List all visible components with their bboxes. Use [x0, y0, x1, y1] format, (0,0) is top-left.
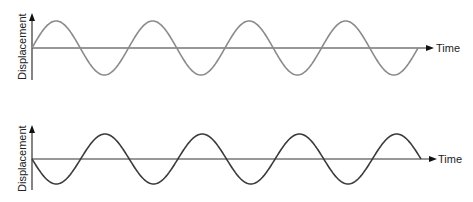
top-x-arrow-icon	[426, 45, 434, 51]
wave-diagram: Displacement Time Displacement Time	[0, 0, 473, 202]
bottom-x-arrow-icon	[429, 156, 437, 162]
top-x-axis-label: Time	[436, 42, 460, 54]
top-panel: Displacement Time	[16, 13, 460, 80]
top-y-arrow-icon	[29, 13, 35, 21]
top-y-axis-label: Displacement	[16, 13, 28, 80]
bottom-x-axis-label: Time	[438, 153, 462, 165]
bottom-panel: Displacement Time	[16, 125, 462, 192]
bottom-y-axis-label: Displacement	[16, 125, 28, 192]
bottom-y-arrow-icon	[29, 125, 35, 133]
